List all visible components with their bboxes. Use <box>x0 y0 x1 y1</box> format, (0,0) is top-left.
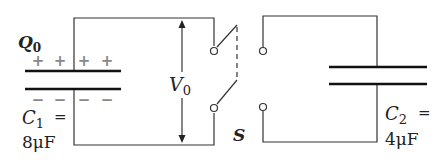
c2-label: C2 <box>385 103 407 127</box>
plus-sign: + <box>101 52 114 70</box>
charge-label: Q0 <box>18 32 41 55</box>
minus-sign: − <box>54 91 67 109</box>
switch-label: S <box>233 125 245 145</box>
circuit-diagram: + + + + − − − − Q0 C1 = 8μF V0 S <box>0 0 445 167</box>
c2-value: 4μF <box>385 129 419 149</box>
switch-terminal <box>211 105 218 112</box>
minus-sign: − <box>101 91 114 109</box>
c1-equals: = <box>54 108 67 126</box>
c2-equals: = <box>418 104 431 122</box>
switch-terminal <box>211 48 218 55</box>
capacitor-c2 <box>329 67 427 84</box>
plus-sign: + <box>54 52 67 70</box>
switch-s <box>211 25 267 112</box>
left-circuit-wires <box>74 18 214 145</box>
minus-sign: − <box>78 91 91 109</box>
voltage-label: V0 <box>169 73 191 98</box>
switch-terminal <box>260 48 267 55</box>
plus-sign: + <box>78 52 91 70</box>
c1-label: C1 <box>22 107 44 131</box>
switch-terminal <box>260 104 267 111</box>
c1-value: 8μF <box>22 132 56 152</box>
capacitor-c1 <box>25 71 121 89</box>
negative-charges: − − − − <box>32 91 114 109</box>
positive-charges: + + + + <box>32 52 114 70</box>
right-circuit-wires <box>263 16 377 142</box>
